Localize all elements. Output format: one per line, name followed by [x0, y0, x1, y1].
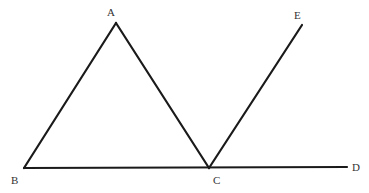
- geometry-diagram: A B C D E: [0, 0, 369, 193]
- segment-ce: [209, 25, 302, 168]
- label-point-c: C: [213, 174, 220, 186]
- segment-ba: [24, 23, 116, 168]
- label-point-e: E: [294, 9, 301, 21]
- segment-ac: [116, 23, 209, 168]
- label-point-b: B: [11, 174, 18, 186]
- label-point-d: D: [352, 161, 360, 173]
- segment-bd: [24, 167, 347, 168]
- label-point-a: A: [107, 6, 115, 18]
